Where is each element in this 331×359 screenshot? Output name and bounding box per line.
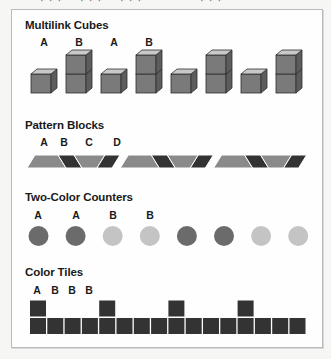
color-tile xyxy=(30,318,46,334)
color-tile xyxy=(272,318,288,334)
color-tiles-row xyxy=(0,0,331,359)
color-tile xyxy=(47,318,63,334)
color-tile xyxy=(82,318,98,334)
color-tile xyxy=(117,318,133,334)
color-tile xyxy=(220,318,236,334)
color-tile xyxy=(186,318,202,334)
color-tile-stacked xyxy=(99,301,115,317)
color-tile-stacked xyxy=(30,301,46,317)
color-tile xyxy=(290,318,306,334)
color-tile xyxy=(238,318,254,334)
color-tile-stacked xyxy=(168,301,184,317)
color-tile xyxy=(65,318,81,334)
color-tile xyxy=(203,318,219,334)
color-tile xyxy=(151,318,167,334)
color-tile-stacked xyxy=(238,301,254,317)
color-tile xyxy=(134,318,150,334)
color-tile xyxy=(255,318,271,334)
color-tile xyxy=(168,318,184,334)
color-tile xyxy=(99,318,115,334)
